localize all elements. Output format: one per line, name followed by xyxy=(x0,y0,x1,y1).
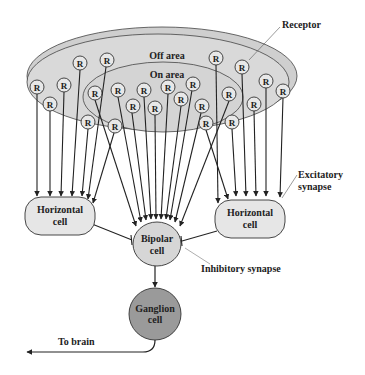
inhibitory-tick-left xyxy=(131,235,132,245)
svg-text:R: R xyxy=(203,119,210,129)
svg-text:Horizontal: Horizontal xyxy=(37,204,83,215)
svg-text:R: R xyxy=(251,100,258,110)
svg-text:R: R xyxy=(226,90,233,100)
svg-text:R: R xyxy=(85,118,92,128)
receptor: R xyxy=(111,83,125,97)
svg-text:R: R xyxy=(130,102,137,112)
horizontal-cell-left: Horizontal cell xyxy=(25,197,95,235)
receptor: R xyxy=(259,74,273,88)
inhibitory-synapse-leader xyxy=(185,248,210,264)
receptor: R xyxy=(174,92,188,106)
receptor: R xyxy=(235,60,249,74)
receptor: R xyxy=(81,115,95,129)
svg-text:R: R xyxy=(112,122,119,132)
receptor: R xyxy=(186,77,200,91)
off-area-label: Off area xyxy=(149,50,185,61)
receptor: R xyxy=(57,78,71,92)
svg-text:cell: cell xyxy=(53,216,68,227)
ganglion-cell: Ganglion cell xyxy=(129,288,181,340)
svg-text:R: R xyxy=(229,118,236,128)
svg-text:R: R xyxy=(77,59,84,69)
receptor: R xyxy=(137,83,151,97)
svg-text:Bipolar: Bipolar xyxy=(141,233,174,244)
svg-text:R: R xyxy=(34,83,41,93)
on-area-label: On area xyxy=(150,69,185,80)
svg-text:R: R xyxy=(152,104,159,114)
svg-text:R: R xyxy=(190,80,197,90)
receptor: R xyxy=(73,56,87,70)
receptor: R xyxy=(199,116,213,130)
receptor: R xyxy=(209,51,223,65)
excitatory-synapse-label: Excitatory xyxy=(298,169,343,180)
horizontal-cell-right: Horizontal cell xyxy=(215,200,285,238)
receptor: R xyxy=(108,119,122,133)
bipolar-cell: Bipolar cell xyxy=(133,222,181,266)
svg-text:Horizontal: Horizontal xyxy=(227,207,273,218)
receptor: R xyxy=(161,80,175,94)
receptor-label: Receptor xyxy=(282,19,321,30)
svg-text:R: R xyxy=(141,86,148,96)
svg-text:R: R xyxy=(61,81,68,91)
svg-text:R: R xyxy=(199,102,206,112)
excitatory-synapse-label-2: synapse xyxy=(298,181,332,192)
svg-text:cell: cell xyxy=(243,219,258,230)
svg-text:R: R xyxy=(239,63,246,73)
receptor: R xyxy=(148,101,162,115)
svg-text:R: R xyxy=(213,54,220,64)
svg-text:R: R xyxy=(263,77,270,87)
svg-text:R: R xyxy=(47,100,54,110)
receptor: R xyxy=(88,86,102,100)
svg-text:cell: cell xyxy=(150,245,165,256)
receptor: R xyxy=(30,80,44,94)
svg-text:cell: cell xyxy=(148,314,163,325)
inhibitory-synapse-label: Inhibitory synapse xyxy=(201,263,281,274)
receptor: R xyxy=(195,99,209,113)
left-horizontal-to-bipolar xyxy=(92,224,132,240)
receptor: R xyxy=(276,84,290,98)
receptor: R xyxy=(126,99,140,113)
svg-text:R: R xyxy=(92,89,99,99)
right-horizontal-to-bipolar xyxy=(182,231,217,241)
receptor: R xyxy=(225,115,239,129)
to-brain-label: To brain xyxy=(58,336,95,347)
receptor: R xyxy=(100,53,114,67)
svg-text:R: R xyxy=(280,87,287,97)
svg-text:R: R xyxy=(165,83,172,93)
receptor: R xyxy=(43,97,57,111)
svg-text:Ganglion: Ganglion xyxy=(135,303,175,314)
svg-text:R: R xyxy=(178,95,185,105)
excitatory-synapse-leader xyxy=(282,175,297,198)
svg-text:R: R xyxy=(115,86,122,96)
retina-receptive-field-diagram: Off area On area Receptor R xyxy=(0,0,365,375)
receptor: R xyxy=(222,87,236,101)
receptor: R xyxy=(247,97,261,111)
svg-text:R: R xyxy=(104,56,111,66)
